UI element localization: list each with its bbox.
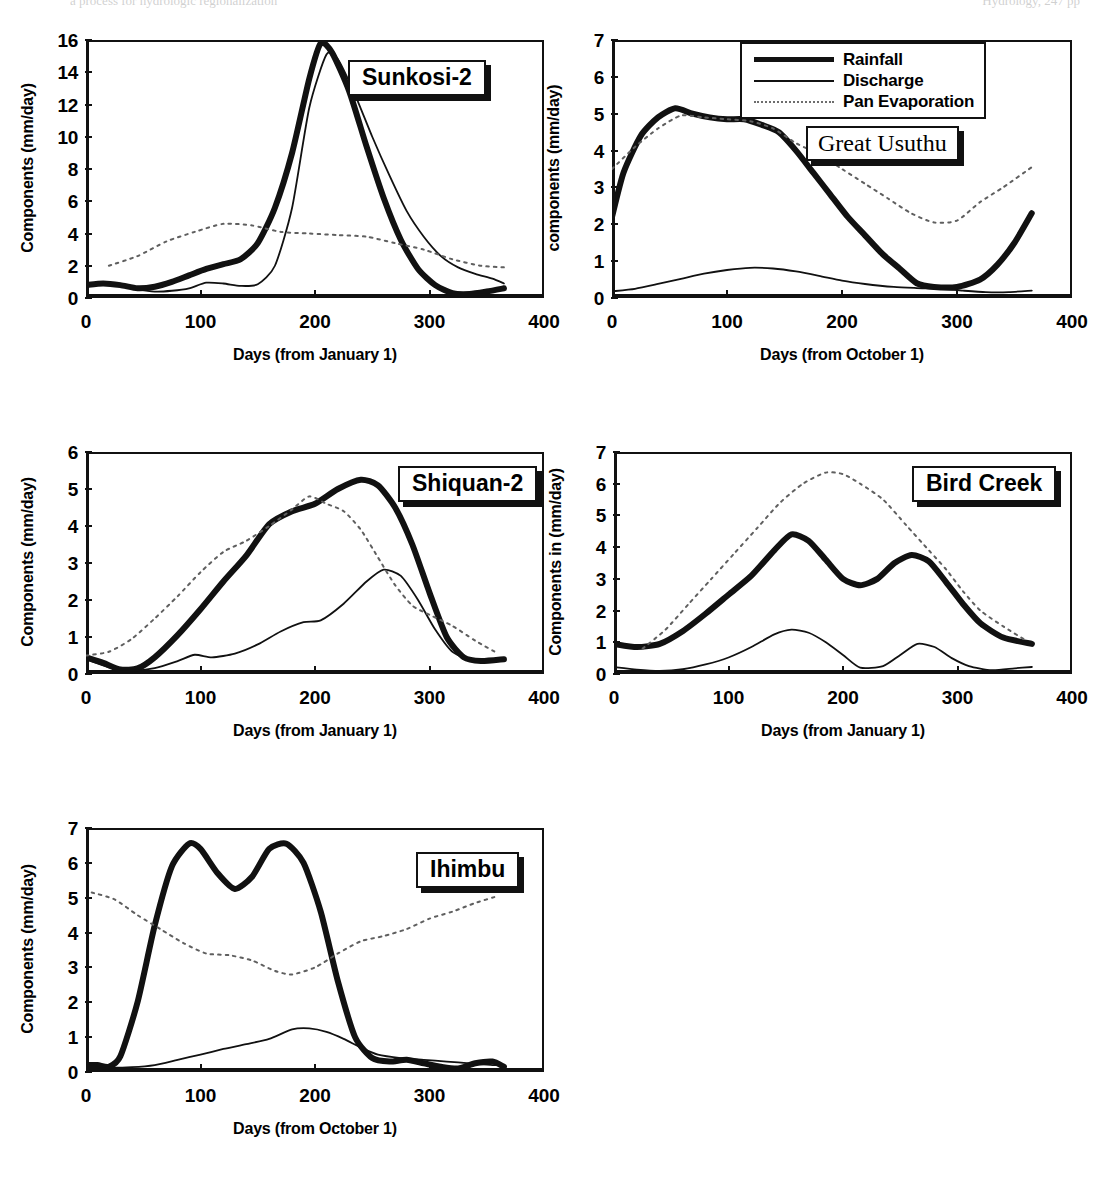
x-axis-title-ihimbu: Days (from October 1)	[86, 1120, 544, 1138]
x-tick-label: 300	[414, 1086, 446, 1105]
y-tick-label: 5	[44, 888, 78, 907]
y-tick-label: 0	[44, 1063, 78, 1082]
y-tick-mark	[85, 897, 92, 899]
y-tick-mark	[85, 862, 92, 864]
chart-title-plaque-sunkosi-2: Sunkosi-2	[348, 60, 486, 96]
figure-panel-grid: 02468101214160100200300400Components (mm…	[0, 0, 1098, 1185]
y-axis-title-ihimbu: Components (mm/day)	[19, 827, 37, 1071]
x-tick-label: 400	[528, 1086, 560, 1105]
legend-swatch-icon	[750, 74, 836, 88]
y-tick-mark	[85, 932, 92, 934]
y-tick-mark	[85, 1001, 92, 1003]
y-tick-mark	[85, 1071, 92, 1073]
x-tick-label: 100	[185, 1086, 217, 1105]
x-tick-label: 0	[81, 1086, 92, 1105]
legend-swatch-icon	[750, 53, 836, 67]
series-discharge	[86, 1028, 504, 1067]
y-tick-label: 1	[44, 1028, 78, 1047]
x-tick-mark	[200, 1064, 202, 1071]
chart-panel-ihimbu: 012345670100200300400Components (mm/day)…	[0, 0, 1098, 1185]
legend-item-rainfall: Rainfall	[750, 49, 974, 70]
y-tick-label: 2	[44, 993, 78, 1012]
legend-swatch-icon	[750, 95, 836, 109]
legend-item-discharge: Discharge	[750, 70, 974, 91]
y-tick-label: 3	[44, 958, 78, 977]
chart-title-plaque-great-usuthu: Great Usuthu	[806, 126, 959, 161]
y-tick-label: 6	[44, 853, 78, 872]
legend-label: Discharge	[843, 71, 923, 91]
legend-label: Rainfall	[843, 50, 903, 70]
y-tick-label: 7	[44, 819, 78, 838]
legend-label: Pan Evaporation	[843, 92, 974, 112]
chart-title-plaque-shiquan-2: Shiquan-2	[398, 466, 537, 502]
y-tick-mark	[85, 827, 92, 829]
chart-title-plaque-bird-creek: Bird Creek	[912, 466, 1056, 502]
x-tick-mark	[314, 1064, 316, 1071]
x-tick-label: 200	[299, 1086, 331, 1105]
y-tick-mark	[85, 966, 92, 968]
y-tick-mark	[85, 1036, 92, 1038]
x-tick-mark	[429, 1064, 431, 1071]
chart-title-plaque-ihimbu: Ihimbu	[416, 852, 519, 888]
y-tick-label: 4	[44, 923, 78, 942]
legend-item-pan-evaporation: Pan Evaporation	[750, 91, 974, 112]
chart-legend: RainfallDischargePan Evaporation	[740, 42, 986, 119]
